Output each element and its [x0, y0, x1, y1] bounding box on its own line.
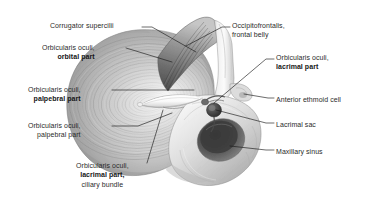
label-line: Orbicularis oculi, — [42, 43, 95, 52]
label-line: Corrugator supercilii — [50, 21, 114, 30]
label-line: frontal belly — [232, 30, 285, 39]
label-orbicularis-oculi-lacrimal-part-ciliary-bundle: Orbicularis oculi,lacrimal part,ciliary … — [76, 161, 129, 189]
label-line: Orbicularis oculi, — [28, 85, 81, 94]
label-line: lacrimal part, — [76, 170, 129, 179]
label-line: palpebral part — [28, 94, 81, 103]
illustration-figure: Corrugator superciliiOrbicularis oculi,o… — [0, 0, 365, 207]
label-line: Lacrimal sac — [276, 120, 316, 129]
label-line: Occipitofrontalis, — [232, 21, 285, 30]
label-line: palpebral part — [28, 130, 81, 139]
label-line: lacrimal part — [276, 62, 329, 71]
label-maxillary-sinus: Maxillary sinus — [276, 147, 323, 156]
label-orbicularis-oculi-palpebral-part-upper: Orbicularis oculi,palpebral part — [28, 85, 81, 104]
label-lacrimal-sac: Lacrimal sac — [276, 120, 316, 129]
label-orbicularis-oculi-orbital-part: Orbicularis oculi,orbital part — [42, 43, 95, 62]
label-line: ciliary bundle — [76, 180, 129, 189]
label-corrugator-supercilii: Corrugator supercilii — [50, 21, 114, 30]
label-line: Orbicularis oculi, — [276, 53, 329, 62]
label-orbicularis-oculi-lacrimal-part: Orbicularis oculi,lacrimal part — [276, 53, 329, 72]
label-line: Anterior ethmoid cell — [276, 95, 341, 104]
label-line: Orbicularis oculi, — [76, 161, 129, 170]
label-line: Orbicularis oculi, — [28, 121, 81, 130]
label-line: Maxillary sinus — [276, 147, 323, 156]
label-occipitofrontalis-frontal-belly: Occipitofrontalis,frontal belly — [232, 21, 285, 40]
label-line: orbital part — [42, 52, 95, 61]
label-orbicularis-oculi-palpebral-part-lower: Orbicularis oculi,palpebral part — [28, 121, 81, 140]
label-anterior-ethmoid-cell: Anterior ethmoid cell — [276, 95, 341, 104]
